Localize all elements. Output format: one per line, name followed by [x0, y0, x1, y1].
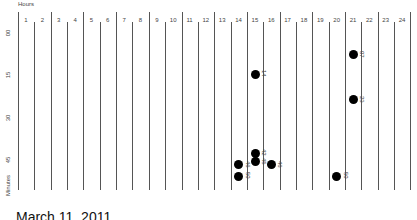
x-axis-title: Hours	[18, 1, 34, 7]
hour-tick-label: 4	[67, 17, 83, 23]
data-point	[234, 172, 243, 181]
hour-gridline	[132, 22, 133, 190]
data-point-label: 50	[343, 172, 349, 179]
data-point-label: 46	[277, 161, 283, 168]
hour-gridline	[394, 22, 395, 190]
hour-tick-label: 19	[312, 17, 328, 23]
hour-tick-label: 6	[100, 17, 116, 23]
hour-gridline	[100, 22, 101, 190]
data-point	[332, 172, 341, 181]
hour-gridline	[198, 22, 199, 190]
hour-tick-label: 7	[116, 17, 132, 23]
hour-tick-label: 8	[132, 17, 148, 23]
minute-tick-label: 45	[5, 150, 11, 170]
hour-gridline	[18, 12, 19, 190]
hour-gridline	[410, 12, 411, 190]
chart-date: March 11, 2011	[16, 209, 111, 220]
hour-gridline	[182, 12, 183, 190]
hour-tick-label: 1	[18, 17, 34, 23]
data-point-label: 46	[245, 161, 251, 168]
minute-tick-label: 15	[5, 65, 11, 85]
data-point-label: 50	[245, 172, 251, 179]
data-point-label: 23	[359, 96, 365, 103]
data-point	[267, 160, 276, 169]
hour-tick-label: 16	[263, 17, 279, 23]
hour-gridline	[67, 22, 68, 190]
hour-tick-label: 13	[214, 17, 230, 23]
hour-tick-label: 12	[198, 17, 214, 23]
hour-gridline	[296, 22, 297, 190]
hour-tick-label: 2	[34, 17, 50, 23]
data-point	[349, 95, 358, 104]
data-point	[349, 50, 358, 59]
hour-tick-label: 17	[280, 17, 296, 23]
hour-tick-label: 9	[149, 17, 165, 23]
data-point-label: 07	[359, 51, 365, 58]
minute-tick-label: 00	[5, 23, 11, 43]
data-point	[251, 157, 260, 166]
y-axis-title: Minutes	[5, 176, 11, 196]
hour-gridline	[231, 22, 232, 190]
hour-tick-label: 18	[296, 17, 312, 23]
hour-tick-label: 10	[165, 17, 181, 23]
data-point	[251, 70, 260, 79]
hour-tick-label: 22	[361, 17, 377, 23]
hour-gridline	[329, 22, 330, 190]
hour-gridline	[214, 12, 215, 190]
hour-tick-label: 5	[83, 17, 99, 23]
data-point-label: 42	[261, 149, 267, 156]
hour-gridline	[149, 12, 150, 190]
hour-gridline	[165, 22, 166, 190]
hour-tick-label: 23	[378, 17, 394, 23]
hour-gridline	[51, 12, 52, 190]
hour-gridline	[312, 12, 313, 190]
hour-gridline	[345, 12, 346, 190]
hour-gridline	[116, 12, 117, 190]
hour-tick-label: 21	[345, 17, 361, 23]
hour-tick-label: 11	[182, 17, 198, 23]
hour-gridline	[361, 22, 362, 190]
data-point-label: 14	[261, 70, 267, 77]
hour-gridline	[378, 12, 379, 190]
hour-tick-label: 15	[247, 17, 263, 23]
data-point	[234, 160, 243, 169]
hour-tick-label: 3	[51, 17, 67, 23]
hour-tick-label: 24	[394, 17, 410, 23]
minute-hour-chart: Hours 1234567891011121314151617181920212…	[0, 0, 417, 220]
hour-tick-label: 20	[329, 17, 345, 23]
minute-tick-label: 30	[5, 108, 11, 128]
hour-tick-label: 14	[231, 17, 247, 23]
hour-gridline	[83, 12, 84, 190]
hour-gridline	[34, 22, 35, 190]
